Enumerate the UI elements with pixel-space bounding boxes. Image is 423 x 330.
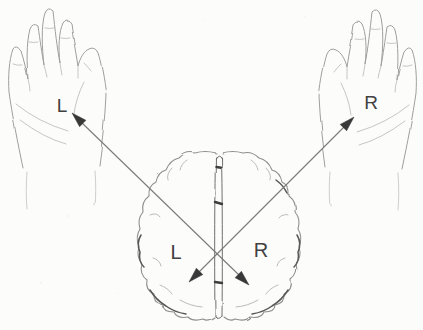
left-hemisphere-outline (137, 152, 216, 321)
right-hemisphere-label: R (254, 239, 268, 261)
arrow-right-hand-left-hemisphere (189, 117, 354, 282)
figure-canvas: L R L R (0, 0, 423, 330)
left-hand-label: L (57, 95, 68, 116)
right-hemisphere-outline (222, 152, 301, 321)
crossed-hemisphere-hand-diagram: L R L R (0, 0, 423, 330)
left-hemisphere-label: L (170, 241, 181, 263)
right-hand-label: R (364, 92, 378, 113)
brain-top-view-icon (137, 152, 301, 321)
longitudinal-fissure (215, 155, 223, 319)
